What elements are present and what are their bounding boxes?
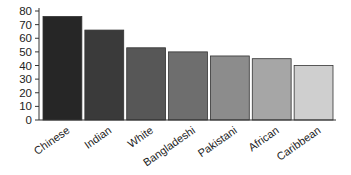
y-tick-label: 60	[19, 32, 32, 44]
y-axis: 01020304050607080	[19, 5, 39, 126]
y-tick-label: 50	[19, 46, 32, 58]
bar-white	[127, 48, 166, 120]
bar-chart: 01020304050607080 ChineseIndianWhiteBang…	[0, 0, 351, 175]
y-tick-label: 0	[26, 114, 32, 126]
bar-pakistani	[210, 56, 249, 120]
bar-caribbean	[294, 66, 333, 121]
x-tick-label: Pakistani	[196, 124, 239, 159]
y-tick-label: 10	[19, 100, 32, 112]
bar-bangladeshi	[169, 52, 208, 120]
bar-african	[252, 59, 291, 120]
y-tick-label: 20	[19, 87, 32, 99]
bars	[43, 16, 333, 120]
x-tick-label: White	[125, 124, 155, 150]
x-tick-label: African	[246, 124, 281, 153]
y-tick-label: 70	[19, 19, 32, 31]
x-axis: ChineseIndianWhiteBangladeshiPakistaniAf…	[32, 120, 336, 168]
bar-chinese	[43, 16, 82, 120]
y-tick-label: 40	[19, 60, 32, 72]
y-tick-label: 80	[19, 5, 32, 17]
y-tick-label: 30	[19, 73, 32, 85]
x-tick-label: Indian	[82, 124, 113, 151]
x-tick-label: Chinese	[32, 124, 72, 157]
bar-indian	[85, 30, 124, 120]
x-tick-label: Caribbean	[274, 124, 322, 163]
